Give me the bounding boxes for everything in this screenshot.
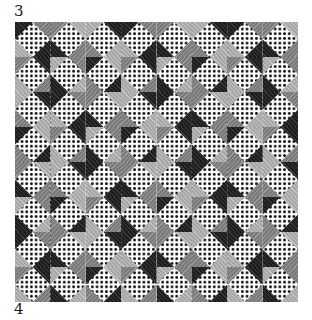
stitch-quadrant xyxy=(86,22,104,40)
stitch-quadrant xyxy=(33,40,51,58)
stitch-quadrant xyxy=(15,162,33,180)
stitch-quadrant xyxy=(86,162,104,180)
stitch-quadrant xyxy=(50,232,68,250)
stitch-quadrant xyxy=(245,57,263,75)
stitch-quadrant xyxy=(280,162,298,180)
stitch-quadrant xyxy=(227,162,245,180)
stitch-quadrant xyxy=(103,40,121,58)
stitch-quadrant xyxy=(103,250,121,268)
stitch-quadrant xyxy=(174,92,192,110)
stitch-quadrant xyxy=(227,250,245,268)
stitch-quadrant xyxy=(50,110,68,128)
stitch-tile xyxy=(15,232,50,267)
stitch-quadrant xyxy=(192,127,210,145)
stitch-quadrant xyxy=(103,22,121,40)
stitch-quadrant xyxy=(68,250,86,268)
stitch-quadrant xyxy=(50,215,68,233)
stitch-quadrant xyxy=(139,57,157,75)
stitch-quadrant xyxy=(227,92,245,110)
stitch-quadrant xyxy=(68,92,86,110)
stitch-quadrant xyxy=(33,285,51,303)
stitch-quadrant xyxy=(210,57,228,75)
stitch-tile xyxy=(86,22,121,57)
stitch-quadrant xyxy=(174,145,192,163)
stitch-quadrant xyxy=(157,232,175,250)
stitch-quadrant xyxy=(157,162,175,180)
stitch-quadrant xyxy=(174,267,192,285)
stitch-quadrant xyxy=(15,267,33,285)
stitch-quadrant xyxy=(157,145,175,163)
stitch-quadrant xyxy=(33,110,51,128)
stitch-quadrant xyxy=(157,22,175,40)
stitch-tile xyxy=(157,162,192,197)
stitch-quadrant xyxy=(139,250,157,268)
stitch-quadrant xyxy=(263,215,281,233)
stitch-quadrant xyxy=(139,40,157,58)
stitch-quadrant xyxy=(33,22,51,40)
stitch-quadrant xyxy=(157,40,175,58)
stitch-tile xyxy=(227,92,262,127)
stitch-quadrant xyxy=(103,267,121,285)
stitch-tile xyxy=(227,197,262,232)
stitch-quadrant xyxy=(210,162,228,180)
stitch-quadrant xyxy=(245,40,263,58)
stitch-quadrant xyxy=(121,127,139,145)
stitch-quadrant xyxy=(227,22,245,40)
stitch-quadrant xyxy=(210,232,228,250)
stitch-quadrant xyxy=(227,215,245,233)
stitch-quadrant xyxy=(139,232,157,250)
stitch-quadrant xyxy=(50,127,68,145)
stitch-tile xyxy=(263,127,298,162)
stitch-quadrant xyxy=(280,145,298,163)
stitch-tile xyxy=(15,92,50,127)
stitch-quadrant xyxy=(15,215,33,233)
stitch-tile xyxy=(121,267,156,302)
stitch-quadrant xyxy=(15,127,33,145)
stitch-quadrant xyxy=(245,145,263,163)
stitch-tile xyxy=(263,267,298,302)
stitch-quadrant xyxy=(263,127,281,145)
stitch-quadrant xyxy=(50,267,68,285)
stitch-quadrant xyxy=(103,232,121,250)
stitch-quadrant xyxy=(280,215,298,233)
stitch-tile xyxy=(263,92,298,127)
stitch-tile xyxy=(121,57,156,92)
stitch-quadrant xyxy=(103,110,121,128)
stitch-quadrant xyxy=(33,162,51,180)
stitch-quadrant xyxy=(86,40,104,58)
stitch-quadrant xyxy=(121,267,139,285)
stitch-quadrant xyxy=(227,180,245,198)
stitch-quadrant xyxy=(227,197,245,215)
stitch-tile xyxy=(86,57,121,92)
stitch-tile xyxy=(15,22,50,57)
stitch-tile xyxy=(86,162,121,197)
stitch-quadrant xyxy=(174,232,192,250)
stitch-quadrant xyxy=(68,215,86,233)
stitch-quadrant xyxy=(15,57,33,75)
stitch-quadrant xyxy=(86,92,104,110)
stitch-quadrant xyxy=(103,75,121,93)
stitch-quadrant xyxy=(210,127,228,145)
stitch-quadrant xyxy=(33,180,51,198)
stitch-quadrant xyxy=(192,180,210,198)
stitch-quadrant xyxy=(33,57,51,75)
stitch-quadrant xyxy=(103,285,121,303)
stitch-quadrant xyxy=(121,57,139,75)
stitch-quadrant xyxy=(157,57,175,75)
stitch-quadrant xyxy=(210,110,228,128)
stitch-quadrant xyxy=(210,145,228,163)
stitch-quadrant xyxy=(50,197,68,215)
stitch-quadrant xyxy=(263,110,281,128)
stitch-quadrant xyxy=(245,180,263,198)
stitch-quadrant xyxy=(50,92,68,110)
stitch-quadrant xyxy=(263,162,281,180)
stitch-tile xyxy=(15,162,50,197)
stitch-tile xyxy=(15,127,50,162)
stitch-quadrant xyxy=(245,285,263,303)
stitch-quadrant xyxy=(174,180,192,198)
stitch-quadrant xyxy=(86,180,104,198)
stitch-quadrant xyxy=(210,285,228,303)
stitch-quadrant xyxy=(157,215,175,233)
stitch-quadrant xyxy=(68,162,86,180)
stitch-quadrant xyxy=(280,22,298,40)
